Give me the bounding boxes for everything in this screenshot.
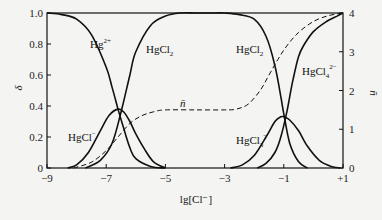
x-axis-title: lg[Cl⁻]: [180, 193, 212, 205]
curve-hgcl4-2-: [257, 13, 343, 168]
label-hgcl2-left: HgCl2: [146, 43, 174, 58]
y-tick-label: 1.0: [29, 7, 43, 19]
y2-tick-label: 2: [349, 85, 355, 97]
y-axis-title: δ: [12, 85, 24, 91]
label-hgcl2-right: HgCl2: [236, 43, 264, 58]
y2-tick-label: 4: [349, 7, 355, 19]
y2-tick-label: 3: [349, 46, 355, 58]
label-hgcl4: HgCl42−: [302, 63, 337, 80]
y-tick-label: 0.2: [29, 131, 43, 143]
y-tick-label: 0.8: [29, 38, 43, 50]
x-tick-label: +1: [337, 172, 349, 184]
y-tick-label: 0.6: [29, 69, 43, 81]
axis-ticks: −9−7−5−3−1+100.20.40.60.81.001234: [29, 7, 355, 184]
distribution-chart: −9−7−5−3−1+100.20.40.60.81.001234 Hg2+ H…: [0, 0, 382, 220]
label-hg2: Hg2+: [90, 37, 111, 50]
x-tick-label: −1: [278, 172, 290, 184]
y2-tick-label: 1: [349, 123, 355, 135]
curves: [47, 13, 343, 168]
y2-tick-label: 0: [349, 162, 355, 174]
x-tick-label: −5: [160, 172, 172, 184]
x-tick-label: −3: [219, 172, 231, 184]
y2-axis-title: n̄: [368, 90, 380, 96]
label-nbar: n̄: [180, 97, 186, 109]
y-tick-label: 0: [38, 162, 44, 174]
label-hgcl3: HgCl3−: [236, 132, 267, 149]
curve-n-average-ligand-number-: [74, 13, 343, 168]
y-tick-label: 0.4: [29, 100, 43, 112]
curve-hgcl2: [86, 13, 308, 168]
x-tick-label: −7: [100, 172, 112, 184]
label-hgcl: HgCl−: [68, 130, 96, 143]
